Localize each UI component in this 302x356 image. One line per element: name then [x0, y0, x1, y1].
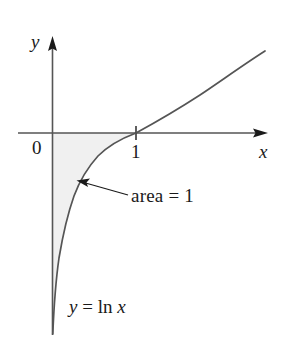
curve-equation-function: ln — [98, 296, 113, 317]
y-axis-label: y — [31, 32, 39, 51]
origin-label: 0 — [32, 138, 42, 157]
area-leader-line — [82, 182, 128, 195]
curve-equation-label: y = ln x — [69, 297, 126, 316]
graph-canvas — [0, 0, 302, 356]
x-axis-label: x — [259, 142, 267, 161]
area-annotation-label: area = 1 — [131, 186, 194, 205]
x-tick-label-1: 1 — [131, 142, 141, 161]
math-figure: y x 0 1 area = 1 y = ln x — [0, 0, 302, 356]
curve-equation-equals: = — [82, 296, 93, 317]
curve-equation-variable: x — [117, 296, 125, 317]
curve-equation-y: y — [69, 296, 77, 317]
